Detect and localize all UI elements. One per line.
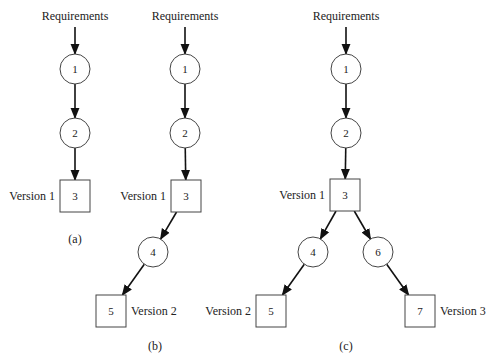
version-box-5: 5 (256, 295, 286, 327)
version-box-3: 3 (171, 180, 201, 212)
step-node-2: 2 (170, 118, 200, 148)
version-label: Version 1 (120, 189, 166, 203)
node-label: 5 (268, 305, 274, 317)
step-node-2: 2 (60, 118, 90, 148)
node-label: 5 (108, 305, 114, 317)
arrow-6-to-7-icon (387, 264, 409, 295)
diagram-canvas: 123123451234657 RequirementsVersion 1(a)… (0, 0, 489, 359)
version-label: Version 2 (131, 304, 177, 318)
node-label: 1 (343, 63, 349, 75)
requirements-label: Requirements (42, 9, 109, 23)
node-label: 6 (375, 246, 381, 258)
caption-c: (c) (339, 339, 352, 353)
caption-a: (a) (68, 232, 81, 246)
version-label: Version 3 (440, 304, 486, 318)
caption-b: (b) (148, 339, 162, 353)
node-label: 2 (182, 127, 188, 139)
version-label: Version 1 (279, 188, 325, 202)
diagram-a: 123 (60, 54, 90, 212)
step-node-6: 6 (363, 237, 393, 267)
step-node-1: 1 (170, 54, 200, 84)
node-label: 2 (343, 127, 349, 139)
requirements-label: Requirements (152, 9, 219, 23)
node-label: 3 (72, 190, 78, 202)
step-node-1: 1 (60, 54, 90, 84)
step-node-1: 1 (331, 54, 361, 84)
node-label: 4 (150, 246, 156, 258)
version-label: Version 1 (9, 189, 55, 203)
node-label: 1 (72, 63, 78, 75)
step-node-4: 4 (138, 237, 168, 267)
arrow-4-to-5-icon (122, 264, 144, 295)
arrow-2-to-3-icon (345, 148, 346, 179)
arrow-3-to-6-icon (354, 211, 370, 239)
arrow-3-to-4-icon (320, 211, 336, 239)
step-node-2: 2 (331, 118, 361, 148)
version-box-3: 3 (330, 179, 360, 211)
arrow-2-to-3-icon (185, 148, 186, 180)
node-label: 2 (72, 127, 78, 139)
version-label: Version 2 (205, 304, 251, 318)
node-label: 7 (417, 305, 423, 317)
node-label: 3 (183, 190, 189, 202)
arrow-4-to-5-icon (282, 264, 304, 295)
version-box-5: 5 (96, 295, 126, 327)
arrow-3-to-4-icon (161, 212, 177, 239)
step-node-4: 4 (298, 237, 328, 267)
node-label: 4 (310, 246, 316, 258)
version-box-3: 3 (60, 180, 90, 212)
node-label: 1 (182, 63, 188, 75)
requirements-label: Requirements (313, 9, 380, 23)
nodes-layer: 123123451234657 (60, 54, 435, 327)
version-box-7: 7 (405, 295, 435, 327)
node-label: 3 (342, 189, 348, 201)
